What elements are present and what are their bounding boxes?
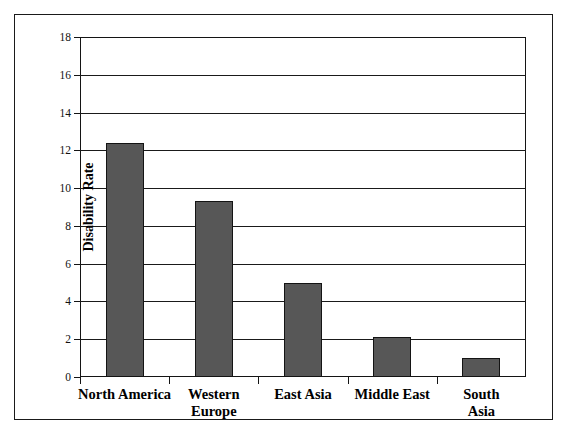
gridline: [80, 75, 526, 76]
x-axis-category-label: South Asia: [459, 386, 504, 420]
y-axis-tick-label: 10: [60, 182, 72, 194]
y-axis-tick-label: 18: [60, 31, 72, 43]
y-axis-tick-label: 4: [65, 295, 71, 307]
y-axis-tick-label: 14: [60, 107, 72, 119]
y-axis-tick-label: 8: [65, 220, 71, 232]
bar: [462, 358, 500, 377]
gridline: [80, 264, 526, 265]
y-axis-tick-label: 16: [60, 69, 72, 81]
x-axis-tick: [348, 377, 349, 384]
x-axis-category-label: North America: [78, 386, 171, 403]
gridline: [80, 113, 526, 114]
figure-frame: 024681012141618 North AmericaWestern Eur…: [14, 14, 553, 420]
gridline: [80, 226, 526, 227]
y-axis-title-wrap: Disability Rate: [78, 37, 100, 377]
y-axis-tick-label: 12: [60, 144, 72, 156]
gridline: [80, 188, 526, 189]
bar: [195, 201, 233, 377]
x-axis-category-label: East Asia: [274, 386, 332, 403]
x-axis-category-label: Western Europe: [188, 386, 240, 420]
y-axis-tick-label: 2: [65, 333, 71, 345]
y-axis-tick-label: 6: [65, 258, 71, 270]
bar: [284, 283, 322, 377]
x-axis-category-label: Middle East: [355, 386, 430, 403]
bar-chart: 024681012141618 North AmericaWestern Eur…: [80, 37, 526, 377]
y-axis-tick-label: 0: [65, 371, 71, 383]
bar: [373, 337, 411, 377]
x-axis-tick: [169, 377, 170, 384]
x-axis-tick: [80, 377, 81, 384]
gridline: [80, 150, 526, 151]
x-axis-tick: [258, 377, 259, 384]
y-axis-title: Disability Rate: [81, 162, 97, 251]
x-axis-tick: [437, 377, 438, 384]
bar: [106, 143, 144, 377]
